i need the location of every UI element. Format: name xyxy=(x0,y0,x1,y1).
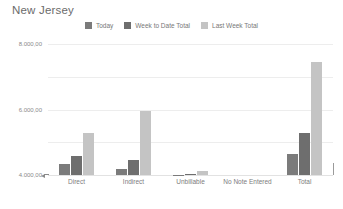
x-axis-tick-label: Indirect xyxy=(105,178,162,185)
legend-item[interactable]: Week to Date Total xyxy=(124,22,190,29)
legend-item-label: Today xyxy=(96,22,113,29)
x-axis-tick-label: Direct xyxy=(48,178,105,185)
bar[interactable] xyxy=(59,164,70,175)
bar[interactable] xyxy=(197,171,208,175)
plot-area: 8.000,006.000,004.000,002.000,000,00 xyxy=(48,44,333,175)
bar[interactable] xyxy=(83,133,94,175)
bar[interactable] xyxy=(128,160,139,175)
x-axis-tick-label: Total xyxy=(276,178,333,185)
bar-groups xyxy=(48,44,333,175)
bar[interactable] xyxy=(299,133,310,175)
x-axis-labels: DirectIndirectUnbillableNo Note EnteredT… xyxy=(48,178,333,185)
legend-item[interactable]: Today xyxy=(85,22,113,29)
bar[interactable] xyxy=(311,62,322,175)
bar[interactable] xyxy=(116,169,127,175)
legend-item-label: Week to Date Total xyxy=(135,22,190,29)
bar-group xyxy=(105,44,162,175)
bar-group xyxy=(219,44,276,175)
y-axis-tick-label: 4.000,00 xyxy=(19,172,42,178)
bar[interactable] xyxy=(71,156,82,175)
bar-group xyxy=(48,44,105,175)
bar[interactable] xyxy=(185,174,196,175)
axis-origin-arrow-icon xyxy=(41,174,45,178)
bar[interactable] xyxy=(287,154,298,175)
axis-right-cap xyxy=(333,163,334,175)
legend-swatch-today xyxy=(85,22,92,29)
y-axis-tick-label: 8.000,00 xyxy=(19,41,42,47)
chart-legend: TodayWeek to Date TotalLast Week Total xyxy=(0,22,343,29)
legend-item-label: Last Week Total xyxy=(212,22,258,29)
legend-swatch-week-to-date-total xyxy=(124,22,131,29)
bar-group xyxy=(162,44,219,175)
y-axis-tick-label: 6.000,00 xyxy=(19,107,42,113)
chart-title: New Jersey xyxy=(12,4,74,16)
bar-chart-card: New Jersey TodayWeek to Date TotalLast W… xyxy=(0,0,343,209)
bar-group xyxy=(276,44,333,175)
gridline: 0,00 xyxy=(48,175,333,176)
x-axis-tick-label: Unbillable xyxy=(162,178,219,185)
bar[interactable] xyxy=(140,111,151,175)
x-axis-tick-label: No Note Entered xyxy=(219,178,276,185)
legend-item[interactable]: Last Week Total xyxy=(201,22,258,29)
legend-swatch-last-week-total xyxy=(201,22,208,29)
